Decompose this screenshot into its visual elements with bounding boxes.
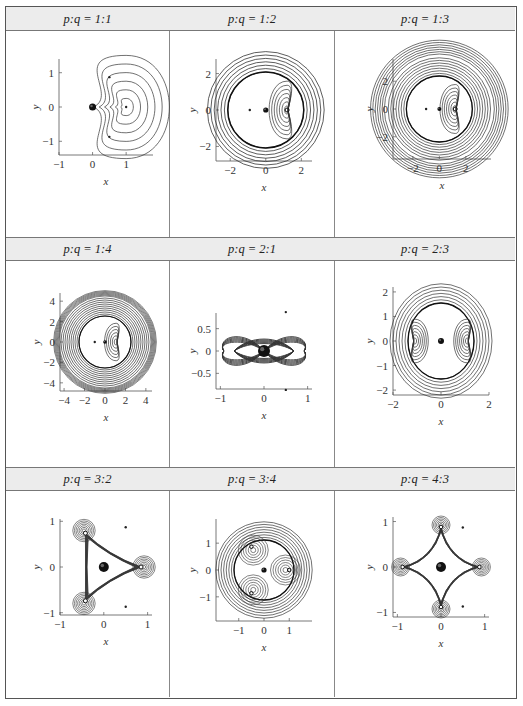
table-cell: p:q = 3:2 −101−101xy	[6, 467, 170, 697]
svg-text:0: 0	[438, 398, 444, 410]
cell-header: p:q = 2:1	[170, 237, 334, 261]
svg-text:1: 1	[482, 620, 488, 632]
svg-text:1: 1	[123, 158, 128, 170]
table-row: p:q = 3:2 −101−101xy p:q = 3:4 −101−101x…	[6, 467, 516, 697]
cell-header: p:q = 3:2	[6, 467, 169, 491]
table-row: p:q = 1:1 −101−101xy p:q = 1:2 −202−202x…	[6, 7, 516, 237]
cell-header: p:q = 4:3	[335, 467, 515, 491]
svg-text:1: 1	[50, 515, 56, 527]
svg-text:1: 1	[49, 67, 55, 79]
table-cell: p:q = 2:3 −202−2−1012xy	[335, 237, 515, 467]
svg-text:0: 0	[49, 101, 55, 113]
svg-text:2: 2	[206, 68, 212, 80]
svg-text:2: 2	[383, 286, 389, 298]
svg-text:y: y	[29, 104, 41, 110]
svg-text:−1: −1	[376, 360, 388, 372]
svg-text:x: x	[438, 415, 444, 427]
cell-header: p:q = 3:4	[170, 467, 334, 491]
svg-text:x: x	[103, 411, 109, 423]
svg-text:−1: −1	[233, 624, 245, 636]
svg-text:x: x	[438, 637, 444, 649]
table-cell: p:q = 1:2 −202−202xy	[170, 7, 335, 237]
svg-text:y: y	[186, 107, 198, 113]
cell-header: p:q = 1:3	[335, 7, 515, 31]
svg-text:2: 2	[123, 394, 129, 406]
svg-text:−2: −2	[199, 140, 211, 152]
contour-plot-1-2: −202−202xy	[170, 31, 335, 235]
svg-text:1: 1	[287, 624, 293, 636]
svg-text:4: 4	[143, 394, 149, 406]
cell-header: p:q = 1:4	[6, 237, 169, 261]
svg-text:−1: −1	[53, 158, 65, 170]
svg-text:0: 0	[90, 158, 96, 170]
svg-text:0: 0	[383, 335, 389, 347]
contour-plot-2-1: −101−0.500.5xy	[170, 261, 335, 465]
svg-text:0: 0	[438, 620, 444, 632]
svg-text:0: 0	[261, 624, 267, 636]
svg-text:−1: −1	[392, 620, 404, 632]
svg-text:−2: −2	[224, 164, 236, 176]
svg-text:−1: −1	[42, 135, 54, 147]
svg-text:0: 0	[101, 618, 107, 630]
contour-plot-4-3: −101−101xy	[335, 491, 515, 695]
svg-text:−1: −1	[54, 618, 66, 630]
cell-header: p:q = 2:3	[335, 237, 515, 261]
figure-table: p:q = 1:1 −101−101xy p:q = 1:2 −202−202x…	[5, 6, 517, 699]
contour-plot-1-4: −4−2024−4−2024xy	[6, 261, 170, 465]
svg-text:x: x	[439, 179, 445, 191]
svg-text:−4: −4	[43, 377, 55, 389]
svg-text:y: y	[186, 567, 198, 573]
svg-text:0: 0	[50, 561, 56, 573]
svg-text:0: 0	[383, 561, 389, 573]
svg-text:0: 0	[206, 564, 212, 576]
table-cell: p:q = 1:4 −4−2024−4−2024xy	[6, 237, 170, 467]
svg-text:y: y	[363, 338, 375, 344]
svg-text:0: 0	[263, 164, 269, 176]
table-cell: p:q = 1:1 −101−101xy	[6, 7, 170, 237]
svg-text:0.5: 0.5	[197, 323, 211, 335]
svg-text:2: 2	[486, 398, 492, 410]
table-cell: p:q = 2:1 −101−0.500.5xy	[170, 237, 335, 467]
svg-text:−2: −2	[387, 398, 399, 410]
cell-header: p:q = 1:2	[170, 7, 334, 31]
svg-text:−1: −1	[199, 591, 211, 603]
svg-text:0: 0	[383, 103, 389, 115]
contour-plot-2-3: −202−2−1012xy	[335, 261, 515, 465]
svg-text:−1: −1	[215, 392, 227, 404]
cell-header: p:q = 1:1	[6, 7, 169, 31]
table-row: p:q = 1:4 −4−2024−4−2024xy p:q = 2:1 −10…	[6, 237, 516, 467]
svg-text:y: y	[186, 348, 198, 354]
svg-text:1: 1	[305, 392, 311, 404]
svg-text:2: 2	[50, 316, 56, 328]
svg-text:−2: −2	[376, 384, 388, 396]
svg-text:−2: −2	[79, 394, 91, 406]
svg-text:4: 4	[50, 295, 56, 307]
contour-plot-1-1: −101−101xy	[6, 31, 170, 235]
svg-text:−4: −4	[58, 394, 70, 406]
svg-text:0: 0	[102, 394, 108, 406]
svg-text:x: x	[103, 175, 109, 187]
table-cell: p:q = 4:3 −101−101xy	[335, 467, 515, 697]
svg-text:1: 1	[383, 516, 389, 528]
table-cell: p:q = 1:3 −202−202xy	[335, 7, 515, 237]
svg-text:2: 2	[299, 164, 305, 176]
svg-text:x: x	[261, 409, 267, 421]
svg-text:0: 0	[206, 345, 212, 357]
contour-plot-3-2: −101−101xy	[6, 491, 170, 695]
svg-text:1: 1	[206, 537, 212, 549]
table-cell: p:q = 3:4 −101−101xy	[170, 467, 335, 697]
svg-text:−0.5: −0.5	[191, 367, 211, 379]
svg-text:0: 0	[261, 392, 267, 404]
svg-text:x: x	[261, 181, 267, 193]
svg-text:x: x	[103, 635, 109, 647]
contour-plot-3-4: −101−101xy	[170, 491, 335, 695]
svg-text:−2: −2	[43, 356, 55, 368]
svg-text:y: y	[30, 564, 42, 570]
svg-text:−1: −1	[43, 607, 55, 619]
svg-text:x: x	[261, 641, 267, 653]
svg-text:1: 1	[383, 310, 389, 322]
svg-text:y: y	[363, 564, 375, 570]
contour-plot-1-3: −202−202xy	[335, 31, 515, 235]
svg-text:1: 1	[145, 618, 151, 630]
svg-text:−1: −1	[376, 606, 388, 618]
